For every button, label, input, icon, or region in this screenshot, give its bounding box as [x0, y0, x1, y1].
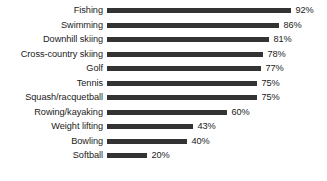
bar-row: Rowing/kayaking60% [0, 105, 327, 120]
bar-category-label: Fishing [0, 6, 103, 15]
bar [107, 66, 261, 71]
bar-value-label: 43% [198, 122, 216, 131]
bar-row: Swimming86% [0, 18, 327, 33]
bar-category-label: Weight lifting [0, 122, 103, 131]
bar-category-label: Bowling [0, 137, 103, 146]
bar-and-value: 43% [107, 122, 216, 131]
bar [107, 37, 269, 42]
bar-row: Golf77% [0, 62, 327, 77]
bar [107, 23, 279, 28]
bar-category-label: Tennis [0, 79, 103, 88]
bar-value-label: 78% [268, 50, 286, 59]
bar-category-label: Golf [0, 64, 103, 73]
bar-value-label: 75% [262, 93, 280, 102]
bar-row: Weight lifting43% [0, 120, 327, 135]
bar-value-label: 40% [192, 137, 210, 146]
bar [107, 95, 257, 100]
bar [107, 124, 193, 129]
bar-and-value: 75% [107, 79, 280, 88]
bar-and-value: 81% [107, 35, 292, 44]
bar-category-label: Softball [0, 151, 103, 160]
bar-and-value: 40% [107, 137, 210, 146]
bar-and-value: 60% [107, 108, 250, 117]
bar [107, 81, 257, 86]
bar-and-value: 77% [107, 64, 284, 73]
bar-category-label: Squash/racquetball [0, 93, 103, 102]
bar [107, 110, 227, 115]
bar-and-value: 75% [107, 93, 280, 102]
bar-value-label: 60% [232, 108, 250, 117]
bar-value-label: 20% [152, 151, 170, 160]
bar-value-label: 86% [284, 21, 302, 30]
bar-value-label: 77% [266, 64, 284, 73]
bar-row: Cross-country skiing78% [0, 47, 327, 62]
bar-row: Tennis75% [0, 76, 327, 91]
bar-and-value: 78% [107, 50, 286, 59]
bar-row: Fishing92% [0, 4, 327, 19]
bar-row: Squash/racquetball75% [0, 91, 327, 106]
bar-value-label: 92% [296, 6, 314, 15]
bar-category-label: Rowing/kayaking [0, 108, 103, 117]
bar-row: Softball20% [0, 149, 327, 164]
bar-and-value: 92% [107, 6, 314, 15]
bar-row: Downhill skiing81% [0, 33, 327, 48]
bar [107, 153, 147, 158]
bar-category-label: Cross-country skiing [0, 50, 103, 59]
bar-row: Bowling40% [0, 134, 327, 149]
bar-category-label: Swimming [0, 21, 103, 30]
bar-and-value: 86% [107, 21, 302, 30]
bar-category-label: Downhill skiing [0, 35, 103, 44]
bar-value-label: 81% [274, 35, 292, 44]
bar-and-value: 20% [107, 151, 170, 160]
bar-value-label: 75% [262, 79, 280, 88]
bar [107, 8, 291, 13]
bar [107, 139, 187, 144]
bar [107, 52, 263, 57]
horizontal-bar-chart: Fishing92%Swimming86%Downhill skiing81%C… [0, 0, 327, 181]
